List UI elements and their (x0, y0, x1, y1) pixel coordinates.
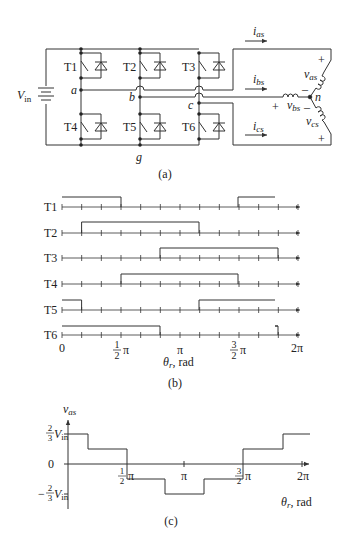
caption-c: (c) (164, 514, 177, 528)
ytop-v: Vin (54, 427, 69, 442)
gating-ticks (62, 204, 298, 338)
tick-half-num: 1 (115, 339, 120, 350)
source-label: Vin (17, 88, 32, 104)
ylabel-vas: vas (63, 402, 77, 417)
x3half-num: 3 (237, 466, 242, 476)
current-ics: ics (253, 119, 264, 134)
row-label-t4: T4 (44, 277, 57, 291)
circuit-labels: Vin T1 T2 T3 T4 T5 T6 a b c g n ias ibs … (17, 24, 325, 181)
x3half-pi: π (245, 469, 251, 483)
voltage-vbs: vbs (287, 98, 301, 113)
current-ias: ias (253, 24, 265, 39)
voltage-vas: vas (304, 67, 318, 82)
node-b: b (129, 90, 135, 104)
minus-bs: – (303, 100, 311, 114)
node-n: n (315, 90, 321, 104)
label-t4: T4 (64, 120, 77, 134)
gating-labels: T1 T2 T3 T4 T5 T6 0 1 2 π π 3 2 π 2π θr,… (44, 200, 303, 390)
neutral-node-dot (308, 95, 312, 99)
switch-cells (81, 53, 225, 139)
signal-t1-a (62, 197, 121, 207)
dc-source-icon (38, 88, 54, 100)
tick-3half-den: 2 (232, 350, 237, 361)
figure-canvas: Vin T1 T2 T3 T4 T5 T6 a b c g n ias ibs … (0, 0, 350, 541)
row-label-t3: T3 (44, 251, 57, 265)
y-zero: 0 (48, 457, 54, 471)
x-2pi: 2π (297, 469, 309, 483)
signal-t6-a (62, 326, 160, 335)
tick-half-pi: π (123, 343, 129, 357)
node-c: c (188, 98, 194, 112)
gating-axes (62, 207, 300, 335)
ybot-v: Vin (54, 487, 69, 502)
caption-b: (b) (168, 376, 182, 390)
signal-t5-a (62, 300, 82, 310)
label-t6: T6 (182, 120, 195, 134)
label-t2: T2 (123, 60, 136, 74)
plus-bs: + (272, 100, 279, 114)
xhalf-den: 2 (120, 476, 125, 486)
caption-a: (a) (158, 167, 171, 181)
current-ibs: ibs (253, 72, 265, 87)
row-label-t1: T1 (44, 200, 57, 214)
xlabel-c: θr, rad (281, 495, 312, 510)
row-label-t2: T2 (44, 226, 57, 240)
tick-3half-pi: π (240, 343, 246, 357)
ybot-num: 2 (48, 483, 53, 493)
signal-t4 (121, 274, 238, 284)
signal-t1-b (238, 197, 275, 207)
label-t1: T1 (64, 60, 77, 74)
tick-half-den: 2 (115, 350, 120, 361)
node-g: g (136, 150, 142, 164)
switch-t4-icon (81, 114, 107, 139)
switch-t2-icon (140, 53, 166, 78)
ybot-den: 3 (48, 493, 53, 503)
xhalf-num: 1 (120, 466, 125, 476)
tick-3half-num: 3 (232, 339, 237, 350)
voltage-vcs: vcs (306, 114, 319, 129)
gating-diagram (62, 197, 278, 335)
ybot-sign: − (38, 487, 45, 501)
signal-t5-b (199, 300, 275, 310)
ytop-num: 2 (48, 423, 53, 433)
switch-t1-icon (81, 53, 107, 78)
minus-as: – (301, 82, 309, 96)
row-label-t5: T5 (44, 303, 57, 317)
plus-cs: + (318, 132, 325, 146)
phase-voltage-plot (64, 420, 310, 509)
switch-t5-icon (140, 114, 166, 139)
x3half-den: 2 (237, 476, 242, 486)
signal-t6-b (275, 326, 278, 335)
xhalf-pi: π (128, 469, 134, 483)
phase-voltage-labels: vas 2 3 Vin 0 − 2 3 Vin 1 2 π π 3 2 π 2π… (38, 402, 312, 528)
label-t5: T5 (123, 120, 136, 134)
node-a: a (71, 83, 77, 97)
row-label-t6: T6 (44, 328, 57, 342)
tick-2pi: 2π (291, 341, 303, 355)
ytop-den: 3 (48, 433, 53, 443)
xlabel-b: θr, rad (163, 355, 194, 370)
plus-as: + (318, 53, 325, 67)
switch-t6-icon (199, 114, 225, 139)
switch-t3-icon (199, 53, 225, 78)
label-t3: T3 (182, 60, 195, 74)
tick-0: 0 (59, 341, 65, 355)
x-pi: π (181, 469, 187, 483)
